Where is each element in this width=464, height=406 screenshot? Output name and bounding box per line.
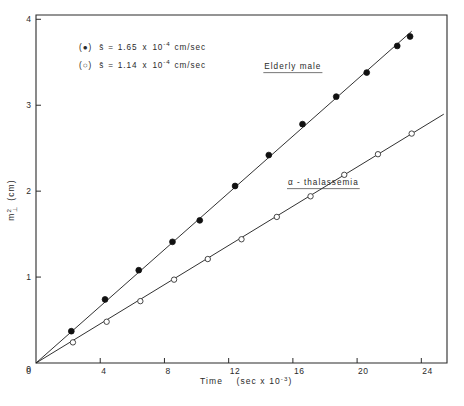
- legend-0-times: x: [142, 43, 147, 52]
- data-point: [364, 70, 370, 76]
- y-tick-label-3: 3: [26, 100, 31, 110]
- data-point: [274, 214, 279, 219]
- y-axis-ticks: [36, 19, 41, 277]
- legend-1-times: x: [142, 61, 147, 70]
- elderly-male-curve-label: Elderly male: [264, 62, 321, 71]
- legend-row-1: (○)s̄=1.14x10-4cm/sec: [79, 58, 206, 70]
- y-tick-label-0: 0: [26, 364, 31, 374]
- data-series: [68, 34, 414, 345]
- x-axis-title-units-open: (sec x 10: [236, 376, 280, 386]
- x-tick-label-4: 4: [101, 366, 106, 376]
- x-tick-label-16: 16: [294, 366, 305, 376]
- legend-1-base: 10: [152, 61, 163, 70]
- data-point: [138, 298, 143, 303]
- data-point: [394, 43, 400, 49]
- x-axis-title-exponent: -3: [281, 375, 289, 382]
- data-point: [205, 256, 210, 261]
- x-axis-ticks: [100, 358, 421, 363]
- data-point: [104, 319, 109, 324]
- svg-text:(○)s̄=1.14x10-4cm/sec: (○)s̄=1.14x10-4cm/sec: [79, 58, 206, 70]
- data-point: [102, 297, 108, 303]
- legend-1-symbol: s̄: [99, 61, 104, 70]
- legend-1-close-paren: ): [89, 61, 93, 70]
- svg-text:Time (sec x 10-3): Time (sec x 10-3): [200, 375, 292, 386]
- legend-0-exponent: -4: [163, 40, 170, 47]
- legend-1-units: cm/sec: [175, 61, 206, 70]
- scatter-plot: 04812162024 01234 Time (sec x 10-3) m2⊥(…: [0, 0, 464, 406]
- y-axis-tick-labels: 01234: [26, 14, 31, 374]
- x-axis-title: Time (sec x 10-3): [200, 375, 292, 386]
- x-axis-title-name: Time: [200, 376, 223, 386]
- data-point: [409, 131, 414, 136]
- fit-line-series-0: [36, 31, 412, 363]
- legend-1-equals: =: [108, 61, 114, 70]
- data-point: [232, 183, 238, 189]
- svg-text:m2⊥(cm): m2⊥(cm): [5, 179, 18, 220]
- legend: (●)s̄=1.65x10-4cm/sec (○)s̄=1.14x10-4cm/…: [79, 40, 206, 70]
- y-axis-title-units: (cm): [6, 179, 16, 200]
- alpha-thalassemia-curve-label: α - thalassemia: [288, 178, 359, 187]
- x-axis-tick-labels: 04812162024: [26, 366, 433, 376]
- data-point: [170, 239, 176, 245]
- y-axis-title-subscript: ⊥: [11, 206, 18, 212]
- x-tick-label-12: 12: [230, 366, 241, 376]
- data-point: [375, 152, 380, 157]
- y-axis-title-base: m: [6, 212, 16, 220]
- data-point: [308, 194, 313, 199]
- data-point: [68, 328, 74, 334]
- legend-0-mantissa: 1.65: [118, 43, 138, 52]
- data-point: [333, 94, 339, 100]
- x-tick-label-8: 8: [165, 366, 170, 376]
- fit-lines: [36, 31, 444, 363]
- legend-row-0: (●)s̄=1.65x10-4cm/sec: [79, 40, 206, 52]
- y-axis-title: m2⊥(cm): [5, 179, 18, 220]
- x-tick-label-24: 24: [422, 366, 433, 376]
- figure-container: 04812162024 01234 Time (sec x 10-3) m2⊥(…: [0, 0, 464, 406]
- x-tick-label-20: 20: [358, 366, 369, 376]
- data-point: [197, 217, 203, 223]
- data-point: [342, 172, 347, 177]
- legend-0-units: cm/sec: [175, 43, 206, 52]
- y-tick-label-1: 1: [26, 272, 31, 282]
- legend-0-equals: =: [108, 43, 114, 52]
- data-point: [171, 277, 176, 282]
- legend-0-close-paren: ): [89, 43, 93, 52]
- data-point: [407, 34, 413, 40]
- legend-0-symbol: s̄: [99, 43, 104, 52]
- curve-annotations: Elderly maleα - thalassemia: [263, 62, 359, 189]
- x-axis-title-units-close: ): [289, 376, 293, 386]
- data-point: [239, 237, 244, 242]
- y-tick-label-4: 4: [26, 14, 31, 24]
- series-1-markers: [70, 131, 414, 345]
- data-point: [70, 340, 75, 345]
- plot-frame: [36, 15, 447, 363]
- legend-1-mantissa: 1.14: [118, 61, 138, 70]
- legend-0-base: 10: [152, 43, 163, 52]
- y-tick-label-2: 2: [26, 186, 31, 196]
- data-point: [266, 152, 272, 158]
- legend-1-exponent: -4: [163, 58, 170, 65]
- data-point: [300, 121, 306, 127]
- data-point: [136, 267, 142, 273]
- svg-text:(●)s̄=1.65x10-4cm/sec: (●)s̄=1.65x10-4cm/sec: [79, 40, 206, 52]
